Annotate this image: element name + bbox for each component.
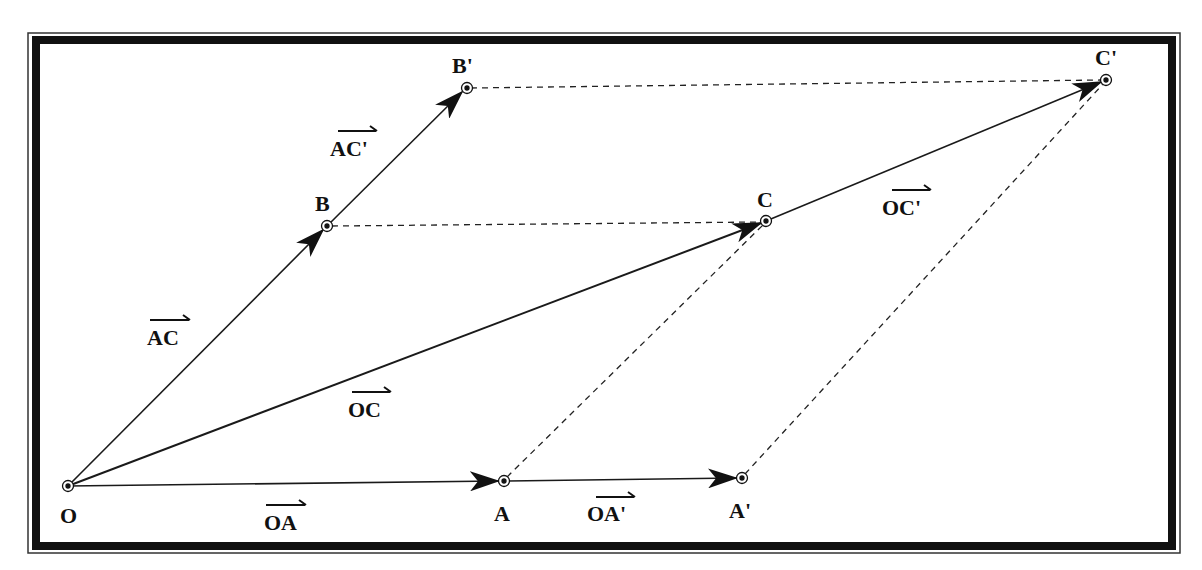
svg-text:OA: OA [264,510,297,535]
svg-text:OC': OC' [882,195,921,220]
label-o: O [60,503,77,528]
point-labels: O A A' B B' C C' [60,45,1117,528]
construction-lines [332,80,1103,477]
label-c-prime: C' [1095,45,1117,70]
dashed-b-c [332,222,760,226]
vector-oc-prime [766,82,1101,221]
vector-label-oa-prime: OA' [587,492,635,526]
label-c: C [757,187,773,212]
vector-label-oc: OC [348,387,391,422]
dashed-a-c [507,225,763,477]
label-b: B [315,191,330,216]
point-c-icon [761,216,772,227]
point-c-prime-icon [1101,75,1112,86]
vector-oc [68,223,761,486]
point-b-prime-icon [462,83,473,94]
dashed-aprime-cprime [745,84,1103,474]
point-a-icon [499,476,510,487]
point-b-icon [322,221,333,232]
point-o-icon [63,481,74,492]
vector-labels: OA OA' AC AC' OC OC' [147,126,931,535]
vector-label-ac-prime: AC' [330,126,377,161]
svg-text:OC: OC [348,397,381,422]
vector-oa [68,481,498,486]
vector-label-oa: OA [264,500,306,535]
svg-text:OA': OA' [587,501,626,526]
vector-diagram: O A A' B B' C C' OA OA' AC AC' OC OC' [0,0,1202,570]
frame [28,33,1180,553]
vector-ac [68,230,323,486]
vector-label-ac: AC [147,315,190,350]
vectors [68,82,1101,486]
point-a-prime-icon [737,473,748,484]
vector-label-oc-prime: OC' [882,185,931,220]
vector-oa-prime [503,478,736,481]
dashed-bprime-cprime [471,80,1100,88]
label-a-prime: A' [729,498,751,523]
label-a: A [494,501,510,526]
svg-text:AC: AC [147,325,179,350]
svg-text:AC': AC' [330,136,368,161]
label-b-prime: B' [452,53,473,78]
